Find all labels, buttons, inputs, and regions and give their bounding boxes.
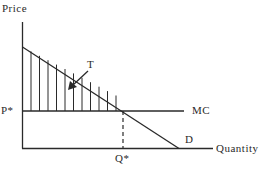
x-axis-label: Quantity — [216, 142, 259, 154]
q-star-label: Q* — [115, 152, 129, 164]
demand-label: D — [185, 133, 193, 145]
area-t-label: T — [87, 58, 94, 70]
mc-label: MC — [192, 104, 210, 116]
p-star-label: P* — [1, 104, 14, 116]
economics-diagram: Price Quantity P* Q* MC D T — [0, 0, 269, 169]
y-axis-label: Price — [2, 2, 27, 14]
demand-line — [23, 47, 180, 149]
